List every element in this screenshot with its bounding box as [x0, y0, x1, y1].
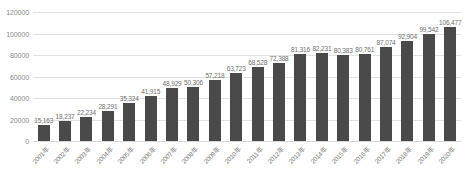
- y-axis-tick-label: 40000: [10, 95, 29, 102]
- bar[interactable]: [102, 111, 114, 141]
- x-axis-tick-label: 2008年: [179, 144, 201, 166]
- bar[interactable]: [316, 53, 328, 141]
- y-axis-tick-label: 80000: [10, 52, 29, 59]
- bar[interactable]: [444, 27, 456, 141]
- x-axis-tick-label: 2007年: [158, 144, 180, 166]
- bar-value-label: 106,477: [439, 19, 461, 26]
- bar-slot: 41,915: [140, 12, 161, 141]
- bar[interactable]: [59, 121, 71, 141]
- bar-value-label: 99,542: [419, 26, 438, 33]
- bar-value-label: 57,218: [205, 72, 224, 79]
- bar-value-label: 92,904: [398, 33, 417, 40]
- y-axis: 020000400006000080000100000120000: [0, 0, 33, 141]
- bar-value-label: 81,316: [291, 46, 310, 53]
- x-axis-tick-label: 2002年: [51, 144, 73, 166]
- bar-slot: 28,291: [97, 12, 118, 141]
- bar-value-label: 80,383: [334, 47, 353, 54]
- bar-series: 15,16318,23722,23428,29135,32441,91548,9…: [33, 12, 461, 141]
- bar[interactable]: [380, 47, 392, 141]
- bar[interactable]: [145, 96, 157, 141]
- x-axis-tick-label: 2004年: [93, 144, 115, 166]
- bar-value-label: 80,761: [355, 46, 374, 53]
- x-axis: 2001年2002年2003年2004年2005年2006年2007年2008年…: [33, 142, 461, 181]
- bar-slot: 106,477: [440, 12, 461, 141]
- x-tick-slot: 2016年: [354, 142, 375, 181]
- bar-slot: 99,542: [418, 12, 439, 141]
- bar-slot: 92,904: [397, 12, 418, 141]
- bar-slot: 18,237: [54, 12, 75, 141]
- bar-slot: 68,528: [247, 12, 268, 141]
- bar[interactable]: [337, 55, 349, 141]
- x-axis-tick-label: 2018年: [393, 144, 415, 166]
- x-tick-slot: 2001年: [33, 142, 54, 181]
- bar[interactable]: [423, 34, 435, 141]
- bar[interactable]: [38, 125, 50, 141]
- y-axis-tick-label: 100000: [6, 30, 29, 37]
- bar-slot: 15,163: [33, 12, 54, 141]
- bar[interactable]: [252, 67, 264, 141]
- bar-value-label: 35,324: [120, 95, 139, 102]
- x-tick-slot: 2011年: [247, 142, 268, 181]
- bar-value-label: 22,234: [77, 109, 96, 116]
- x-axis-tick-label: 2006年: [136, 144, 158, 166]
- x-tick-slot: 2017年: [375, 142, 396, 181]
- bar[interactable]: [230, 73, 242, 142]
- x-axis-tick-label: 2005年: [115, 144, 137, 166]
- bar[interactable]: [80, 117, 92, 141]
- x-axis-tick-label: 2011年: [244, 144, 265, 165]
- bar-slot: 80,761: [354, 12, 375, 141]
- y-axis-tick-label: 0: [25, 138, 29, 145]
- x-tick-slot: 2003年: [76, 142, 97, 181]
- y-axis-tick-label: 60000: [10, 73, 29, 80]
- bar-value-label: 72,388: [270, 55, 289, 62]
- x-axis-tick-label: 2003年: [72, 144, 94, 166]
- y-axis-tick-label: 120000: [6, 9, 29, 16]
- x-tick-slot: 2006年: [140, 142, 161, 181]
- bar-value-label: 18,237: [56, 113, 75, 120]
- bar[interactable]: [187, 87, 199, 141]
- bar-value-label: 41,915: [141, 88, 160, 95]
- x-axis-tick-label: 2019年: [414, 144, 436, 166]
- y-axis-tick-label: 20000: [10, 116, 29, 123]
- bar-chart: 020000400006000080000100000120000 15,163…: [0, 0, 465, 181]
- bar-slot: 35,324: [119, 12, 140, 141]
- bar[interactable]: [401, 41, 413, 141]
- bar[interactable]: [209, 80, 221, 142]
- bar[interactable]: [123, 103, 135, 141]
- x-tick-slot: 2013年: [290, 142, 311, 181]
- x-axis-tick-label: 2017年: [372, 144, 394, 166]
- x-axis-tick-label: 2001年: [29, 144, 51, 166]
- x-tick-slot: 2007年: [161, 142, 182, 181]
- x-axis-tick-label: 2012年: [265, 144, 287, 166]
- bar-slot: 72,388: [268, 12, 289, 141]
- bar[interactable]: [294, 54, 306, 141]
- bar-slot: 22,234: [76, 12, 97, 141]
- bar-slot: 63,723: [226, 12, 247, 141]
- x-tick-slot: 2012年: [268, 142, 289, 181]
- x-axis-tick-label: 2013年: [286, 144, 308, 166]
- bar[interactable]: [166, 88, 178, 141]
- bar-value-label: 63,723: [227, 65, 246, 72]
- bar[interactable]: [359, 54, 371, 141]
- x-tick-slot: 2014年: [311, 142, 332, 181]
- x-tick-slot: 2018年: [397, 142, 418, 181]
- bar-slot: 48,929: [161, 12, 182, 141]
- bar-slot: 50,306: [183, 12, 204, 141]
- bar-value-label: 87,074: [377, 39, 396, 46]
- x-axis-tick-label: 2016年: [350, 144, 372, 166]
- bar-slot: 80,383: [333, 12, 354, 141]
- x-axis-tick-label: 2014年: [307, 144, 329, 166]
- x-tick-slot: 2010年: [226, 142, 247, 181]
- x-axis-tick-label: 2010年: [222, 144, 244, 166]
- x-tick-slot: 2009年: [204, 142, 225, 181]
- bar-value-label: 28,291: [98, 103, 117, 110]
- bar-slot: 82,231: [311, 12, 332, 141]
- x-tick-slot: 2005年: [119, 142, 140, 181]
- bar-value-label: 15,163: [34, 117, 53, 124]
- plot-area: 15,16318,23722,23428,29135,32441,91548,9…: [33, 12, 461, 141]
- x-tick-slot: 2004年: [97, 142, 118, 181]
- bar[interactable]: [273, 63, 285, 141]
- bar-value-label: 48,929: [163, 80, 182, 87]
- bar-slot: 57,218: [204, 12, 225, 141]
- x-axis-tick-label: 2009年: [200, 144, 222, 166]
